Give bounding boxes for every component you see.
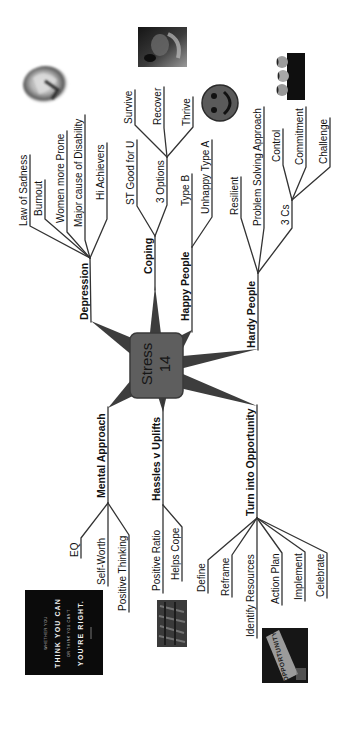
leaf-law-of-sadness: Law of Sadness <box>18 155 29 226</box>
poster-line-2: THINK YOU CAN <box>54 598 61 668</box>
poster-line-1: WHETHER YOU <box>44 616 48 650</box>
branch-turn-into-opportunity: Turn into Opportunity Define Reframe Ide… <box>196 405 327 638</box>
branch-label-hassles-v-uplifts: Hassles v Uplifts <box>150 417 162 501</box>
central-node-title: Stress <box>138 343 155 386</box>
leaf-implement: Implement <box>293 553 304 600</box>
leaf-positive-thinking: Positive Thinking <box>117 536 128 611</box>
leaf-define: Define <box>196 563 207 592</box>
branch-mental-approach: Mental Approach EQ Self-Worth Positive T… <box>69 407 129 612</box>
central-node-number: 14 <box>156 356 173 373</box>
leaf-self-worth: Self-Worth <box>96 538 107 585</box>
branch-hassles-v-uplifts: Hassles v Uplifts Positive Ratio Helps C… <box>150 400 182 593</box>
leaf-recover: Recover <box>152 87 163 125</box>
leaf-3-options: 3 Options <box>155 160 166 203</box>
leaf-hi-achievers: Hi Achievers <box>95 144 106 200</box>
group-photo <box>276 53 305 100</box>
branch-label-mental-approach: Mental Approach <box>95 413 107 498</box>
leaf-unhappy-type-a: Unhappy Type A <box>200 140 211 214</box>
leaf-resilient: Resilient <box>229 176 240 215</box>
leaf-type-b: Type B <box>180 175 191 206</box>
leaf-3-cs: 3 Cs <box>280 204 291 225</box>
leaf-eq: EQ <box>69 542 80 557</box>
leaf-identify-resources: Identify Resources <box>245 554 256 637</box>
leaf-major-cause-of-disability: Major cause of Disability <box>73 119 84 227</box>
branch-label-happy-people: Happy People <box>179 251 191 321</box>
leaf-helps-cope: Helps Cope <box>170 527 181 580</box>
leaf-commitment: Commitment <box>294 108 305 165</box>
branch-hardy-people: Hardy People Resilient Problem Solving A… <box>229 107 330 350</box>
hands-photo <box>23 66 69 104</box>
opportunity-sign-photo: OPPORTUNITY <box>262 628 308 683</box>
branch-label-turn-into-opportunity: Turn into Opportunity <box>244 408 256 516</box>
leaf-problem-solving-approach: Problem Solving Approach <box>252 108 263 226</box>
branch-happy-people: Happy People Type B Unhappy Type A <box>179 140 212 332</box>
branch-label-hardy-people: Hardy People <box>245 281 257 348</box>
central-node: Stress 14 <box>130 333 183 398</box>
smiley-face-icon <box>202 85 238 121</box>
face-in-hands-photo <box>138 27 187 67</box>
leaf-reframe: Reframe <box>220 557 231 596</box>
leaf-positive-ratio: Positive Ratio <box>151 529 162 591</box>
connector-turn-into-opportunity <box>171 371 257 406</box>
leaf-celebrate: Celebrate <box>315 553 326 597</box>
poster-photo: WHETHER YOU THINK YOU CAN OR THINK YOU C… <box>25 590 103 675</box>
leaf-action-plan: Action Plan <box>270 553 281 604</box>
crowd-photo <box>157 600 187 647</box>
branch-label-depression: Depression <box>78 263 90 320</box>
leaf-thrive: Thrive <box>181 98 192 126</box>
poster-line-4: YOU'RE RIGHT. <box>77 600 84 666</box>
leaf-st-good-for-u: ST Good for U <box>125 141 136 205</box>
branch-depression: Depression Law of Sadness Burnout Women … <box>18 115 107 322</box>
leaf-burnout: Burnout <box>33 181 44 216</box>
leaf-survive: Survive <box>123 90 134 124</box>
leaf-women-more-prone: Women more Prone <box>55 133 66 223</box>
mind-map: WHETHER YOU THINK YOU CAN OR THINK YOU C… <box>0 0 357 732</box>
leaf-challenge: Challenge <box>318 119 329 164</box>
poster-line-3: OR THINK YOU CAN'T <box>67 609 71 657</box>
leaf-control: Control <box>271 130 282 162</box>
connector-hardy-people <box>172 349 258 371</box>
branch-label-coping: Coping <box>142 238 154 274</box>
